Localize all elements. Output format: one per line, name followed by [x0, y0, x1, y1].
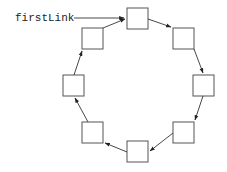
diagram-svg: firstLink [0, 0, 227, 172]
first-link-label: firstLink [15, 12, 75, 24]
edge-1-2 [194, 49, 203, 73]
node-6-left [63, 75, 84, 96]
node-7-top-left [82, 28, 103, 49]
node-1-top-right [173, 28, 194, 49]
linked-list-diagram: firstLink [0, 0, 227, 172]
edge-5-6 [75, 98, 88, 122]
edge-2-3 [195, 96, 203, 120]
edge-4-5 [105, 143, 127, 152]
node-5-bottom-left [82, 122, 103, 143]
node-2-right [193, 75, 214, 96]
node-3-bottom-right [173, 122, 194, 143]
edge-3-4 [150, 133, 173, 151]
node-0-top [127, 8, 148, 29]
node-4-bottom [127, 141, 148, 162]
edge-0-1 [148, 19, 171, 27]
edge-7-0 [103, 19, 125, 28]
edge-6-7 [74, 51, 82, 75]
